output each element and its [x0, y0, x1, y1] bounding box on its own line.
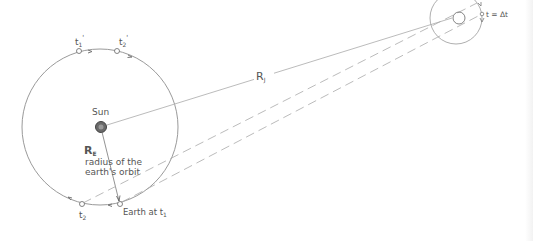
page-edge: [525, 0, 533, 241]
orbit-arrow-icon: [108, 204, 112, 207]
earth-radius-symbol: RE: [84, 144, 97, 157]
io-time-label: t = Δt: [486, 10, 508, 19]
roemer-diagram: Sun RE radius of the earth's orbit RJ t1…: [0, 0, 533, 241]
jupiter-distance-line: [107, 18, 452, 125]
earth-t2-marker: [80, 202, 85, 207]
sun-label: Sun: [92, 107, 109, 117]
earth-t1-marker: [118, 202, 123, 207]
earth-t2-prime-marker: [115, 49, 120, 54]
t2-label: t2: [79, 210, 87, 221]
earth-t1-prime-marker: [77, 49, 82, 54]
t2-prime-label: t2': [119, 34, 128, 48]
io-marker: [480, 12, 484, 16]
orbit-arrow-icon: [88, 50, 92, 53]
earth-radius-caption-2: earth's orbit: [85, 167, 140, 177]
jupiter-icon: [453, 12, 465, 24]
sun-core: [99, 125, 104, 130]
earth-radius-caption-1: radius of the: [85, 157, 142, 167]
t1-prime-label: t1': [75, 34, 84, 48]
light-path-t2: [83, 3, 477, 203]
earth-t1-label: Earth at t1: [123, 207, 167, 218]
